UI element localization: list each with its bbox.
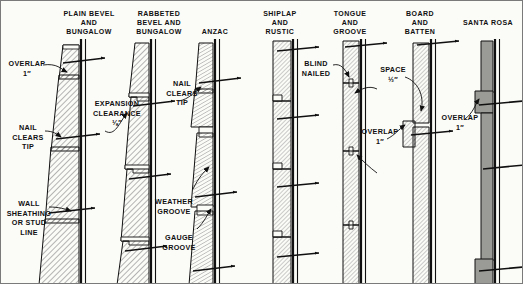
- siding-drawings: [1, 1, 523, 284]
- drawing-board-and-batten: [387, 39, 459, 284]
- drawing-santa-rosa: [465, 39, 523, 284]
- siding-details-figure: PLAIN BEVEL AND BUNGALOW RABBETED BEVEL …: [0, 0, 523, 284]
- drawing-shiplap-and-rustic: [273, 39, 319, 284]
- drawing-tongue-and-groove: [333, 39, 387, 284]
- drawing-rabbeted-bevel-and-bungalow: [105, 39, 175, 284]
- drawing-plain-bevel-and-bungalow: [39, 39, 105, 284]
- drawing-anzac: [179, 39, 241, 284]
